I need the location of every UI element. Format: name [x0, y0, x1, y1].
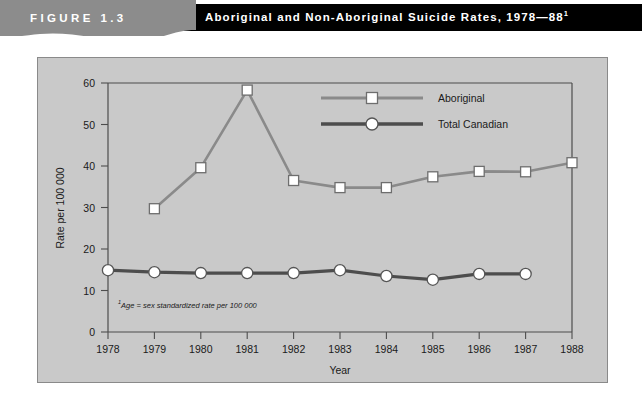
chart-panel: 0 10 20 30 40 50 60 Rate per 100 000 [37, 57, 608, 383]
x-tick-label: 1979 [143, 343, 167, 355]
x-tick-label: 1978 [96, 343, 120, 355]
data-point-marker [242, 268, 253, 279]
data-point-marker [288, 268, 299, 279]
legend-marker-total-canadian [366, 118, 378, 130]
figure-number-banner: FIGURE 1.3 [0, 0, 196, 41]
page-title-text: Aboriginal and Non-Aboriginal Suicide Ra… [205, 11, 564, 23]
x-tick-label: 1983 [328, 343, 352, 355]
y-tick-label: 10 [83, 285, 95, 297]
page-title-superscript: 1 [564, 9, 568, 18]
data-point-marker [195, 268, 206, 279]
data-point-marker [196, 163, 206, 173]
y-tick-label: 60 [83, 77, 95, 89]
series-line [154, 90, 572, 209]
data-point-marker [381, 270, 392, 281]
figure-header: Aboriginal and Non-Aboriginal Suicide Ra… [0, 0, 642, 36]
series-total-canadian [102, 265, 531, 286]
series-line [108, 270, 526, 280]
x-tick-label: 1988 [560, 343, 584, 355]
suicide-rates-line-chart: 0 10 20 30 40 50 60 Rate per 100 000 [38, 58, 607, 382]
x-axis-tick-labels: 1978 1979 1980 1981 1982 1983 1984 1985 … [96, 343, 584, 355]
legend-label-aboriginal: Aboriginal [438, 92, 485, 104]
chart-footnote-text: Age = sex standardized rate per 100 000 [120, 301, 258, 310]
series-aboriginal [149, 85, 577, 214]
x-tick-label: 1984 [375, 343, 399, 355]
x-tick-label: 1986 [468, 343, 492, 355]
data-point-marker [149, 204, 159, 214]
figure-frame: 0 10 20 30 40 50 60 Rate per 100 000 [0, 36, 642, 399]
data-series-layer [102, 85, 577, 285]
figure-number-label: FIGURE 1.3 [30, 12, 127, 24]
y-axis-title: Rate per 100 000 [54, 167, 66, 248]
data-point-marker [521, 167, 531, 177]
x-axis-ticks [108, 332, 572, 339]
y-tick-label: 0 [89, 326, 95, 338]
chart-legend: Aboriginal Total Canadian [321, 92, 508, 130]
x-tick-label: 1981 [236, 343, 260, 355]
y-tick-label: 50 [83, 119, 95, 131]
page-title: Aboriginal and Non-Aboriginal Suicide Ra… [205, 9, 635, 23]
data-point-marker [334, 265, 345, 276]
data-point-marker [381, 183, 391, 193]
y-axis-tick-labels: 0 10 20 30 40 50 60 [83, 77, 95, 338]
y-tick-label: 20 [83, 243, 95, 255]
data-point-marker [335, 183, 345, 193]
data-point-marker [242, 85, 252, 95]
data-point-marker [474, 166, 484, 176]
legend-marker-aboriginal [367, 93, 378, 104]
data-point-marker [102, 265, 113, 276]
data-point-marker [520, 268, 531, 279]
x-tick-label: 1982 [282, 343, 306, 355]
chart-footnote: 1Age = sex standardized rate per 100 000 [118, 299, 258, 310]
y-tick-label: 30 [83, 202, 95, 214]
data-point-marker [149, 267, 160, 278]
data-point-marker [474, 268, 485, 279]
x-tick-label: 1987 [514, 343, 538, 355]
data-point-marker [428, 172, 438, 182]
x-tick-label: 1985 [421, 343, 445, 355]
data-point-marker [427, 274, 438, 285]
x-axis-title: Year [329, 364, 351, 376]
x-tick-label: 1980 [189, 343, 213, 355]
data-point-marker [289, 176, 299, 186]
data-point-marker [567, 158, 577, 168]
y-tick-label: 40 [83, 160, 95, 172]
legend-label-total-canadian: Total Canadian [438, 118, 508, 130]
y-axis-ticks [101, 83, 108, 332]
